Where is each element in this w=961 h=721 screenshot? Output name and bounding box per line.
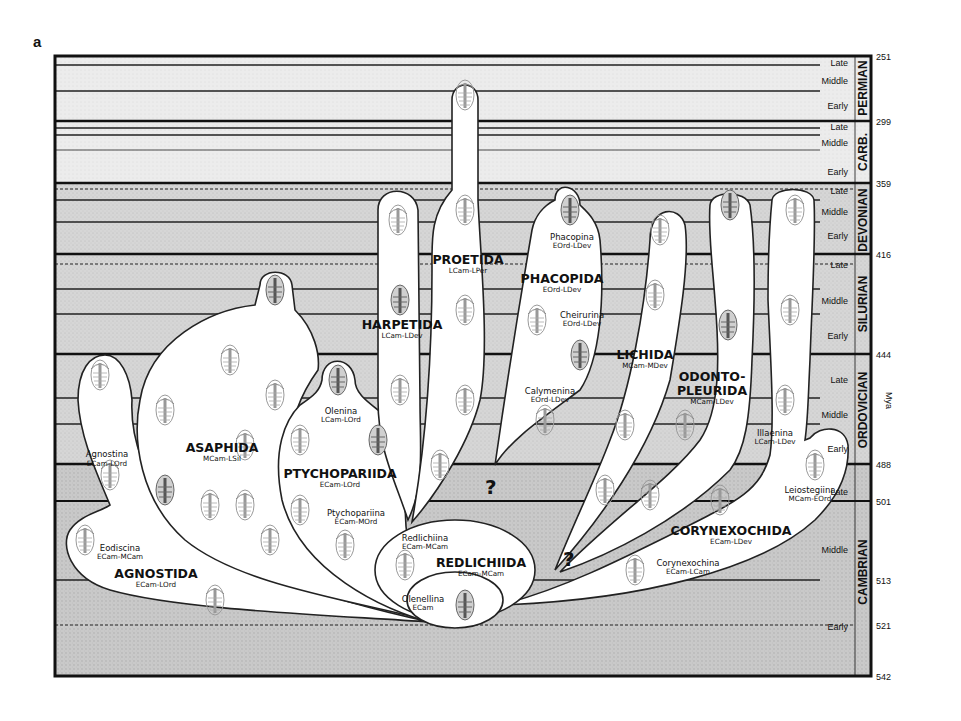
svg-text:SILURIAN: SILURIAN <box>856 276 870 333</box>
svg-text:Early: Early <box>827 231 848 241</box>
svg-text:PERMIAN: PERMIAN <box>856 60 870 115</box>
svg-text:CAMBRIAN: CAMBRIAN <box>856 539 870 604</box>
order-name: PTYCHOPARIIDA <box>283 466 397 481</box>
order-name: CORYNEXOCHIDA <box>671 523 792 538</box>
order-name: HARPETIDA <box>362 317 443 332</box>
svg-text:Early: Early <box>827 101 848 111</box>
svg-text:CARB.: CARB. <box>856 133 870 171</box>
svg-text:488: 488 <box>876 460 891 470</box>
svg-text:Middle: Middle <box>821 296 848 306</box>
order-range: MCam-LDev <box>690 397 734 406</box>
svg-text:299: 299 <box>876 117 891 127</box>
order-name: ASAPHIDA <box>186 440 259 455</box>
svg-text:Middle: Middle <box>821 138 848 148</box>
svg-text:Middle: Middle <box>821 545 848 555</box>
svg-text:Late: Late <box>830 375 848 385</box>
order-name: ODONTO- <box>679 369 746 384</box>
mya-tick-labels: 251 299 359 416 444 488 501 513 521 542 … <box>876 52 894 682</box>
suborder-range: ECam <box>413 603 434 612</box>
svg-text:444: 444 <box>876 350 891 360</box>
svg-text:Early: Early <box>827 167 848 177</box>
uncertain-mark: ? <box>563 547 575 571</box>
order-range: MCam-LSil <box>203 454 241 463</box>
axis-unit-label: Mya <box>884 392 894 409</box>
suborder-range: EOrd-LDev <box>553 241 592 250</box>
svg-text:416: 416 <box>876 250 891 260</box>
svg-text:Middle: Middle <box>821 207 848 217</box>
suborder-range: ECam-LCam <box>666 567 710 576</box>
svg-text:513: 513 <box>876 576 891 586</box>
svg-text:Early: Early <box>827 622 848 632</box>
suborder-range: ECam-MCam <box>97 552 143 561</box>
trilobite-phylogeny-diagram: ? ? <box>0 0 961 721</box>
svg-text:359: 359 <box>876 179 891 189</box>
suborder-range: MCam-EOrd <box>789 494 832 503</box>
order-name: AGNOSTIDA <box>114 566 198 581</box>
order-range: MCam-MDev <box>622 361 668 370</box>
svg-text:501: 501 <box>876 497 891 507</box>
order-range: ECam-LOrd <box>320 480 360 489</box>
order-range: LCam-LPer <box>449 266 488 275</box>
svg-text:251: 251 <box>876 52 891 62</box>
svg-text:ORDOVICIAN: ORDOVICIAN <box>856 372 870 449</box>
order-name: PROETIDA <box>432 252 504 267</box>
suborder-range: EOrd-LDev <box>563 319 602 328</box>
suborder-range: ECam-LOrd <box>87 459 127 468</box>
svg-text:Late: Late <box>830 58 848 68</box>
order-range: EOrd-LDev <box>543 285 582 294</box>
svg-text:Early: Early <box>827 444 848 454</box>
svg-text:Late: Late <box>830 122 848 132</box>
svg-text:521: 521 <box>876 621 891 631</box>
uncertain-mark: ? <box>485 475 497 499</box>
svg-text:Middle: Middle <box>821 410 848 420</box>
order-range: ECam-LOrd <box>136 580 176 589</box>
order-name-line2: PLEURIDA <box>677 383 747 398</box>
suborder-range: ECam-MCam <box>402 542 448 551</box>
suborder-range: LCam-LDev <box>754 437 796 446</box>
order-range: LCam-LDev <box>381 331 423 340</box>
order-name: PHACOPIDA <box>521 271 604 286</box>
suborder-range: ECam-MOrd <box>335 517 378 526</box>
svg-text:Late: Late <box>830 260 848 270</box>
order-range: ECam-MCam <box>458 569 504 578</box>
svg-text:Late: Late <box>830 186 848 196</box>
svg-text:542: 542 <box>876 672 891 682</box>
suborder-range: LCam-LOrd <box>321 415 361 424</box>
order-range: ECam-LDev <box>710 537 753 546</box>
suborder-name: Agnostina <box>86 449 129 459</box>
svg-text:Middle: Middle <box>821 76 848 86</box>
svg-text:Early: Early <box>827 331 848 341</box>
order-name: LICHIDA <box>617 347 674 362</box>
svg-text:DEVONIAN: DEVONIAN <box>856 188 870 251</box>
svg-text:Late: Late <box>830 487 848 497</box>
suborder-range: EOrd-LDev <box>531 395 570 404</box>
order-name: REDLICHIIDA <box>436 555 526 570</box>
